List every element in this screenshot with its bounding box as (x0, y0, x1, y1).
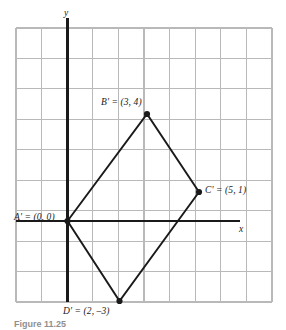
coordinate-plane-figure: A' = (0, 0) B' = (3, 4) C' = (5, 1) D' =… (0, 0, 286, 330)
vertex-marker-b-prime (144, 111, 150, 117)
quadrilateral-shape (68, 114, 200, 301)
x-axis-label: x (239, 225, 243, 235)
vertex-marker-d-prime (116, 298, 122, 304)
vertex-marker-a-prime (64, 218, 70, 224)
y-axis-label: y (64, 9, 68, 19)
vertex-markers (64, 111, 202, 304)
vertex-label-d-prime: D' = (2, –3) (63, 307, 110, 317)
vertex-label-b-prime: B' = (3, 4) (101, 98, 142, 108)
plot-canvas (0, 0, 286, 330)
vertex-label-a-prime: A' = (0, 0) (14, 213, 55, 223)
figure-caption: Figure 11.25 (14, 320, 66, 330)
vertex-marker-c-prime (196, 189, 202, 195)
vertex-label-c-prime: C' = (5, 1) (205, 186, 246, 196)
grid-lines (16, 28, 272, 302)
